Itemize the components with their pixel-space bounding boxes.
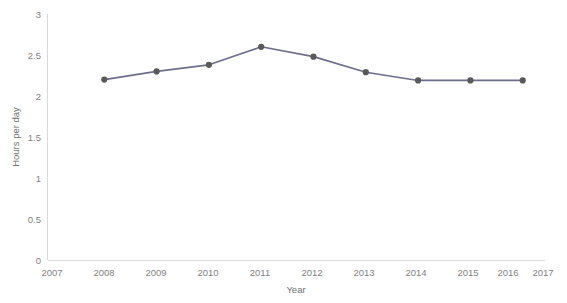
data-point-marker xyxy=(520,77,526,83)
x-tick-label: 2007 xyxy=(41,267,62,278)
y-axis-title: Hours per day xyxy=(10,107,21,167)
x-tick-label: 2017 xyxy=(532,267,553,278)
y-tick-label: 1.5 xyxy=(28,132,41,143)
x-tick-labels: 2007 2008 2009 2010 2011 2012 2013 2014 … xyxy=(41,267,553,278)
x-tick-label: 2009 xyxy=(145,267,166,278)
data-point-marker xyxy=(101,77,107,83)
data-point-marker xyxy=(467,77,473,83)
x-tick-label: 2008 xyxy=(93,267,114,278)
x-axis: 2007 2008 2009 2010 2011 2012 2013 2014 … xyxy=(41,261,553,296)
y-tick-label: 1 xyxy=(36,173,41,184)
data-series-group xyxy=(101,44,526,84)
y-tick-label: 0.5 xyxy=(28,214,41,225)
chart-title xyxy=(0,0,567,2)
data-point-marker xyxy=(206,62,212,68)
line-chart: 3 2.5 2 1.5 1 0.5 0 Hours per day 2007 2… xyxy=(0,0,567,303)
x-tick-label: 2013 xyxy=(353,267,374,278)
x-axis-title: Year xyxy=(286,284,305,295)
x-tick-label: 2015 xyxy=(457,267,478,278)
x-tick-label: 2016 xyxy=(497,267,518,278)
x-tick-label: 2011 xyxy=(250,267,270,278)
y-tick-label: 2.5 xyxy=(28,50,41,61)
data-point-marker xyxy=(363,69,369,75)
x-tick-label: 2014 xyxy=(405,267,426,278)
y-tick-label: 0 xyxy=(36,255,41,266)
data-point-marker xyxy=(154,68,160,74)
data-point-marker xyxy=(310,54,316,60)
x-tick-label: 2012 xyxy=(301,267,322,278)
y-tick-label: 3 xyxy=(36,9,41,20)
x-tick-label: 2010 xyxy=(197,267,218,278)
y-tick-label: 2 xyxy=(36,91,41,102)
y-axis: 3 2.5 2 1.5 1 0.5 0 Hours per day xyxy=(10,9,48,266)
chart-canvas: 3 2.5 2 1.5 1 0.5 0 Hours per day 2007 2… xyxy=(0,0,567,303)
y-tick-labels: 3 2.5 2 1.5 1 0.5 0 xyxy=(28,9,41,266)
series-markers xyxy=(101,44,526,84)
series-line-hours-per-day xyxy=(104,47,522,81)
data-point-marker xyxy=(415,77,421,83)
data-point-marker xyxy=(258,44,264,50)
